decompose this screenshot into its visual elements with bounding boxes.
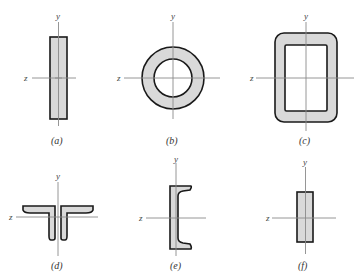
y-axis-label: y <box>55 11 60 21</box>
y-axis-label: y <box>170 11 175 21</box>
z-axis-label: z <box>265 213 270 223</box>
caption-d: (d) <box>51 260 63 272</box>
z-axis-label: z <box>23 73 28 83</box>
caption-e: (e) <box>170 260 182 272</box>
y-axis-label: y <box>303 11 308 21</box>
z-axis-label: z <box>116 73 121 83</box>
panel-b: y z (b) <box>116 11 220 147</box>
y-axis-label: y <box>302 157 307 167</box>
z-axis-label: z <box>138 213 143 223</box>
caption-f: (f) <box>298 260 308 272</box>
z-axis-label: z <box>8 212 13 222</box>
y-axis-label: y <box>55 171 60 181</box>
cross-sections-figure: y z (a) y z (b) y z (c) y z (d) y <box>0 0 364 278</box>
panel-e: y z (e) <box>138 154 206 272</box>
panel-d: y z (d) <box>8 171 98 272</box>
panel-a: y z (a) <box>23 11 76 147</box>
right-angle <box>61 206 93 240</box>
caption-b: (b) <box>166 135 178 147</box>
caption-a: (a) <box>51 135 63 147</box>
channel-section <box>170 186 191 249</box>
y-axis-label: y <box>173 154 178 164</box>
rectangle-section <box>297 192 313 242</box>
left-angle <box>23 206 55 240</box>
caption-c: (c) <box>299 135 311 147</box>
panel-f: y z (f) <box>265 157 336 272</box>
z-axis-label: z <box>249 73 254 83</box>
panel-c: y z (c) <box>249 11 354 147</box>
